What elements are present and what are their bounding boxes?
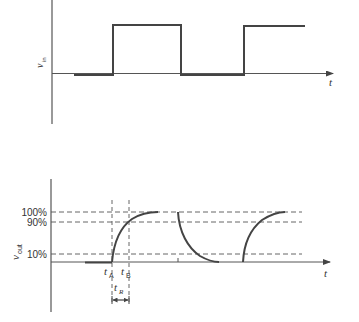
t-b-label: t B bbox=[121, 265, 131, 279]
t-a-label: t A bbox=[104, 265, 114, 279]
output-decay-curve bbox=[178, 212, 219, 262]
output-rise-curve-1 bbox=[112, 212, 158, 262]
output-x-axis-label: t bbox=[324, 267, 328, 279]
input-plot: t v in bbox=[34, 0, 333, 124]
output-y-axis-label: v out bbox=[9, 244, 23, 260]
level-90-label: 90% bbox=[27, 217, 47, 228]
level-10-label: 10% bbox=[27, 249, 47, 260]
svg-text:t: t bbox=[114, 281, 118, 293]
rise-time-diagram: t v in 100% 90% 10% t v out bbox=[0, 0, 359, 322]
svg-text:v: v bbox=[9, 255, 21, 260]
svg-text:A: A bbox=[109, 272, 114, 279]
svg-text:t: t bbox=[104, 265, 108, 277]
svg-text:R: R bbox=[118, 288, 124, 296]
svg-text:in: in bbox=[41, 57, 47, 62]
svg-text:t: t bbox=[121, 265, 125, 277]
svg-text:v: v bbox=[34, 63, 45, 68]
output-plot: 100% 90% 10% t v out t A t B t R bbox=[9, 179, 330, 312]
input-square-wave bbox=[74, 25, 305, 75]
output-rise-curve-2 bbox=[243, 212, 285, 262]
rise-time-bracket bbox=[112, 296, 129, 304]
t-r-label: t R bbox=[114, 281, 124, 296]
svg-text:out: out bbox=[16, 244, 23, 254]
svg-text:B: B bbox=[126, 272, 131, 279]
input-y-axis-label: v in bbox=[34, 57, 47, 68]
input-x-axis-label: t bbox=[329, 76, 333, 88]
